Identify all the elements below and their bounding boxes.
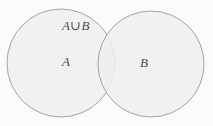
venn-diagram-figure: A∪B A B <box>0 0 213 126</box>
set-b-circle <box>98 11 204 117</box>
set-b-label: B <box>140 56 148 69</box>
set-a-label: A <box>62 55 70 68</box>
venn-diagram-canvas <box>0 0 213 126</box>
union-region-label: A∪B <box>62 19 90 32</box>
